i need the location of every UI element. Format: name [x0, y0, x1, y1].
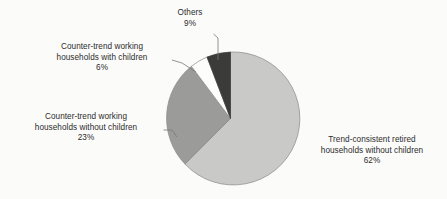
pie-label-retired-without-children-line2: households without children	[299, 146, 445, 157]
pie-label-working-with-children-value: 6%	[28, 63, 176, 74]
pie-label-retired-without-children-line1: Trend-consistent retired	[299, 135, 445, 146]
pie-label-working-without-children-line1: Counter-trend working	[6, 112, 166, 123]
pie-chart-figure: Others 9% Counter-trend working househol…	[0, 0, 447, 199]
pie-slices	[167, 52, 300, 185]
pie-label-retired-without-children: Trend-consistent retired households with…	[299, 135, 445, 167]
pie-label-working-without-children-line2: households without children	[6, 123, 166, 134]
pie-label-others: Others 9%	[152, 8, 228, 29]
pie-label-others-value: 9%	[152, 19, 228, 30]
pie-label-working-with-children-line2: households with children	[28, 53, 176, 64]
pie-label-working-with-children-line1: Counter-trend working	[28, 42, 176, 53]
pie-label-working-with-children: Counter-trend working households with ch…	[28, 42, 176, 74]
pie-label-working-without-children-value: 23%	[6, 133, 166, 144]
pie-label-retired-without-children-value: 62%	[299, 156, 445, 167]
pie-chart-svg	[0, 0, 447, 199]
pie-label-others-text: Others	[152, 8, 228, 19]
pie-label-working-without-children: Counter-trend working households without…	[6, 112, 166, 144]
